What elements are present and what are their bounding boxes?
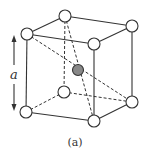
figure-caption: (a) bbox=[67, 136, 82, 149]
back-bottom-edge bbox=[64, 92, 132, 102]
dimension-arrow: a bbox=[10, 35, 18, 111]
edge bbox=[27, 34, 94, 44]
corner-atom bbox=[126, 20, 138, 32]
corner-atom bbox=[126, 96, 138, 108]
bcc-unit-cell-diagram: a (a) bbox=[0, 0, 150, 154]
corner-atom bbox=[21, 28, 33, 40]
edge bbox=[65, 16, 132, 26]
arrow-up-icon bbox=[12, 35, 17, 42]
corner-atom bbox=[20, 106, 32, 118]
corner-atom bbox=[58, 86, 70, 98]
corner-atom bbox=[88, 38, 100, 50]
corner-atom bbox=[88, 115, 100, 127]
body-center-atom bbox=[73, 65, 84, 76]
back-left-vertical-edge bbox=[64, 16, 65, 92]
edge bbox=[26, 112, 94, 121]
dimension-label: a bbox=[10, 67, 18, 82]
edge bbox=[26, 34, 27, 112]
corner-atom bbox=[59, 10, 71, 22]
arrow-down-icon bbox=[12, 104, 17, 111]
